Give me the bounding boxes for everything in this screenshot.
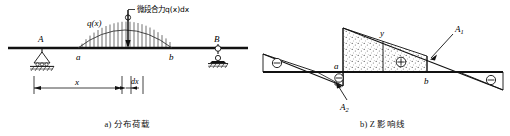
dimension-line-icon	[34, 76, 143, 94]
label-area-a2-sub: 2	[346, 106, 350, 113]
pin-support-icon	[30, 48, 54, 71]
panel-z-influence-line: y a b A1 A2 b) Z 影响线	[255, 0, 510, 136]
diagram-b-svg: y a b A1 A2	[255, 0, 510, 116]
minus-circle-small-icon	[335, 74, 343, 82]
label-support-b: B	[214, 34, 220, 44]
minus-circle-icon	[272, 58, 281, 67]
minus-circle-right-icon	[486, 75, 495, 84]
figure-container: q(x) 微段合力q(x)dx A B a b x dx a) 分布荷载	[0, 0, 510, 136]
label-a: a	[334, 61, 339, 71]
label-area-a1: A1	[454, 24, 464, 35]
label-load-start-a: a	[76, 52, 81, 62]
positive-area-a1	[343, 28, 427, 72]
plus-circle-icon	[396, 57, 406, 67]
leader-arrow-a1-icon	[430, 34, 453, 61]
caption-panel-a: a) 分布荷载	[0, 117, 255, 129]
label-support-a: A	[37, 34, 44, 44]
caption-panel-b: b) Z 影响线	[255, 117, 510, 129]
diagram-a-svg: q(x) 微段合力q(x)dx A B a b x dx	[0, 0, 255, 116]
label-qx: q(x)	[87, 18, 102, 28]
label-resultant-force: 微段合力q(x)dx	[137, 4, 190, 14]
label-area-a1-sub: 1	[461, 28, 464, 35]
label-b: b	[424, 76, 429, 86]
label-ordinate-y: y	[379, 28, 384, 38]
label-dim-dx: dx	[131, 77, 139, 86]
label-area-a2: A2	[339, 102, 350, 113]
label-load-end-b: b	[169, 52, 174, 62]
label-dim-x: x	[74, 77, 79, 87]
panel-distributed-load: q(x) 微段合力q(x)dx A B a b x dx a) 分布荷载	[0, 0, 255, 136]
